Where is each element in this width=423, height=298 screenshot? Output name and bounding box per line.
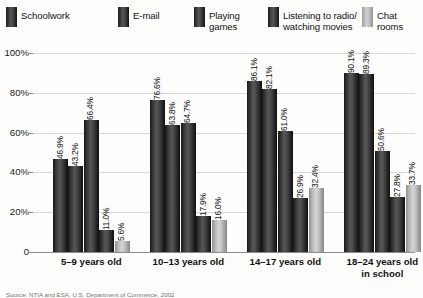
y-axis-tick-mark	[29, 53, 33, 54]
x-axis-category-label: 18–24 years old in school	[318, 256, 423, 279]
bar-value-label: 17.9%	[198, 194, 208, 217]
bar: 16.0%	[212, 220, 227, 252]
legend-swatch-icon	[194, 7, 205, 27]
bar: 50.6%	[375, 151, 390, 252]
chart-legend: SchoolworkE-mailPlaying gamesListening t…	[0, 4, 423, 44]
bar-value-label: 63.8%	[167, 102, 177, 125]
legend-item-3[interactable]: Playing games	[194, 7, 240, 32]
y-axis-tick-mark	[29, 252, 33, 253]
bar: 76.6%	[150, 100, 165, 252]
bar-value-label: 26.9%	[295, 176, 305, 199]
legend-label: Playing games	[209, 7, 240, 32]
bar: 5.6%	[115, 241, 130, 252]
bar: 64.7%	[181, 123, 196, 252]
y-axis-tick-label: 80%	[0, 87, 29, 98]
y-axis-tick-label: 100%	[0, 47, 29, 58]
bar-value-label: 89.3%	[361, 52, 371, 75]
bar-value-label: 43.2%	[70, 143, 80, 166]
legend-label: Schoolwork	[21, 7, 70, 21]
legend-swatch-icon	[268, 7, 279, 27]
bar-value-label: 82.1%	[264, 66, 274, 89]
bar-value-label: 90.1%	[346, 50, 356, 73]
bar-value-label: 5.6%	[116, 223, 126, 241]
legend-item-5[interactable]: Chat rooms	[362, 7, 423, 32]
bar: 90.1%	[344, 73, 359, 252]
y-axis-tick-mark	[29, 133, 33, 134]
gridline-0	[33, 252, 415, 253]
legend-swatch-icon	[6, 7, 17, 27]
bar-group: 76.6%63.8%64.7%17.9%16.0%	[150, 53, 227, 252]
bar: 33.7%	[406, 185, 421, 252]
bar: 66.4%	[84, 120, 99, 252]
legend-item-2[interactable]: E-mail	[118, 7, 160, 27]
bar: 89.3%	[359, 74, 374, 252]
legend-item-1[interactable]: Schoolwork	[6, 7, 70, 27]
source-note: Source: NTIA and ESA, U.S. Department of…	[6, 291, 175, 298]
bar: 32.4%	[309, 188, 324, 252]
bar: 82.1%	[262, 89, 277, 252]
bar: 27.8%	[390, 197, 405, 252]
bar-value-label: 50.6%	[376, 129, 386, 152]
legend-item-4[interactable]: Listening to radio/ watching movies	[268, 7, 357, 32]
legend-label: E-mail	[133, 7, 160, 21]
bar-group: 46.9%43.2%66.4%11.0%5.6%	[53, 53, 130, 252]
legend-label: Listening to radio/ watching movies	[283, 7, 357, 32]
bar-value-label: 64.7%	[182, 101, 192, 124]
bar-value-label: 16.0%	[213, 197, 223, 220]
y-axis-tick-label: 40%	[0, 166, 29, 177]
bar: 11.0%	[99, 230, 114, 252]
bar: 63.8%	[165, 125, 180, 252]
y-axis-tick-mark	[29, 93, 33, 94]
bar: 26.9%	[293, 198, 308, 252]
bar-value-label: 46.9%	[55, 136, 65, 159]
bar-value-label: 86.1%	[249, 58, 259, 81]
bar: 86.1%	[247, 81, 262, 252]
y-axis-tick-mark	[29, 212, 33, 213]
bar-value-label: 33.7%	[407, 162, 417, 185]
y-axis-tick-label: 60%	[0, 127, 29, 138]
bar-group: 90.1%89.3%50.6%27.8%33.7%	[344, 53, 421, 252]
bar: 61.0%	[278, 131, 293, 252]
y-axis-tick-label: 20%	[0, 206, 29, 217]
bar-chart: SchoolworkE-mailPlaying gamesListening t…	[0, 0, 423, 298]
y-axis-tick-label: 0	[0, 246, 29, 257]
legend-swatch-icon	[362, 7, 373, 27]
bar-value-label: 27.8%	[392, 174, 402, 197]
legend-swatch-icon	[118, 7, 129, 27]
plot-area: 46.9%43.2%66.4%11.0%5.6%76.6%63.8%64.7%1…	[33, 53, 415, 252]
bar: 43.2%	[68, 166, 83, 252]
bar-value-label: 66.4%	[85, 97, 95, 120]
bar: 17.9%	[196, 216, 211, 252]
bar-value-label: 11.0%	[101, 208, 111, 230]
bar-group: 86.1%82.1%61.0%26.9%32.4%	[247, 53, 324, 252]
legend-label: Chat rooms	[377, 7, 423, 32]
bar-value-label: 32.4%	[310, 165, 320, 188]
bar-value-label: 61.0%	[279, 108, 289, 131]
y-axis-tick-mark	[29, 172, 33, 173]
bar: 46.9%	[53, 159, 68, 252]
bar-value-label: 76.6%	[152, 77, 162, 100]
